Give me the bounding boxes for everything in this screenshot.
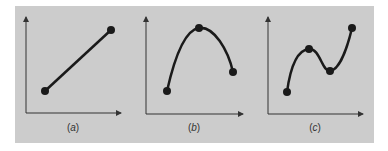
panel-a-label: (a) [53,122,93,133]
data-point [195,24,203,32]
data-point [326,67,334,75]
panel-c-axes [268,17,363,114]
data-point [229,68,237,76]
data-point [348,24,356,32]
data-point [305,45,313,53]
panel-b-label: (b) [174,122,214,133]
panel-c-label: (c) [295,122,335,133]
data-point [283,88,291,96]
data-point [41,87,49,95]
quadratic-curve [167,28,233,91]
paren: ) [318,122,321,133]
data-point [163,87,171,95]
linear-curve [45,30,111,91]
paren: ) [197,122,200,133]
data-point [107,26,115,34]
panel-b-curve [163,24,237,95]
panel-b-axes [146,17,243,114]
panel-c-curve [283,24,356,96]
panel-a-curve [41,26,115,95]
cubic-curve [287,28,352,92]
paren: ) [76,122,79,133]
